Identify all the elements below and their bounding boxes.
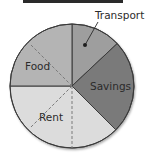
pie-chart: Transport Food Savings Rent — [0, 0, 145, 156]
label-savings: Savings — [90, 80, 131, 92]
label-food: Food — [25, 60, 50, 72]
label-rent: Rent — [39, 111, 63, 123]
label-transport: Transport — [94, 9, 144, 21]
transport-leader-dot — [83, 43, 87, 47]
